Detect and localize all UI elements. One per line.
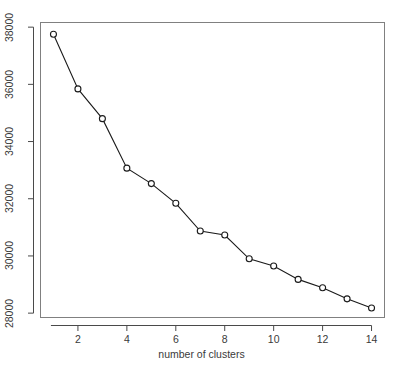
x-axis-tick-label: 4 <box>115 333 139 346</box>
y-axis-tick-label: 36000 <box>3 62 16 106</box>
data-point <box>75 86 81 92</box>
y-axis-tick-label: 38000 <box>3 5 16 49</box>
data-point <box>173 200 179 206</box>
data-point <box>271 263 277 269</box>
y-axis-tick-label: 34000 <box>3 120 16 164</box>
data-markers <box>50 31 374 311</box>
y-axis-tick-label: 30000 <box>3 234 16 278</box>
data-point <box>50 31 56 37</box>
x-axis-tick-label: 12 <box>311 333 335 346</box>
x-axis-tick-label: 6 <box>164 333 188 346</box>
plot-canvas <box>0 0 403 373</box>
x-axis-tick-label: 8 <box>213 333 237 346</box>
data-point <box>246 256 252 262</box>
y-axis-tick-label: 32000 <box>3 177 16 221</box>
data-point <box>197 228 203 234</box>
data-point <box>295 276 301 282</box>
chart-screenshot: 280003000032000340003600038000 246810121… <box>0 0 403 373</box>
x-axis-tick-label: 10 <box>262 333 286 346</box>
data-point <box>369 305 375 311</box>
x-axis-title: number of clusters <box>0 348 403 360</box>
data-point <box>320 285 326 291</box>
data-point <box>124 165 130 171</box>
y-axis-tick-label: 28000 <box>3 291 16 335</box>
data-point <box>148 181 154 187</box>
data-point <box>99 116 105 122</box>
data-point <box>222 232 228 238</box>
data-point <box>344 296 350 302</box>
data-line <box>53 34 371 308</box>
x-axis-tick-label: 14 <box>360 333 384 346</box>
x-axis-tick-label: 2 <box>66 333 90 346</box>
